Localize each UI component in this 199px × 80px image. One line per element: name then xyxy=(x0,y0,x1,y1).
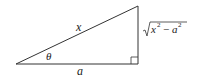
opposite-side-label: x 2 − a 2 xyxy=(143,21,187,36)
right-angle-marker xyxy=(131,57,138,64)
svg-text:−: − xyxy=(163,23,169,35)
hypotenuse-label: x xyxy=(75,20,82,34)
triangle xyxy=(16,6,138,64)
svg-text:2: 2 xyxy=(157,21,161,29)
svg-text:x: x xyxy=(150,23,156,35)
svg-text:2: 2 xyxy=(178,21,182,29)
right-triangle-diagram: x θ a x 2 − a 2 xyxy=(0,0,199,80)
angle-theta-label: θ xyxy=(46,50,52,62)
adjacent-label: a xyxy=(77,64,83,78)
